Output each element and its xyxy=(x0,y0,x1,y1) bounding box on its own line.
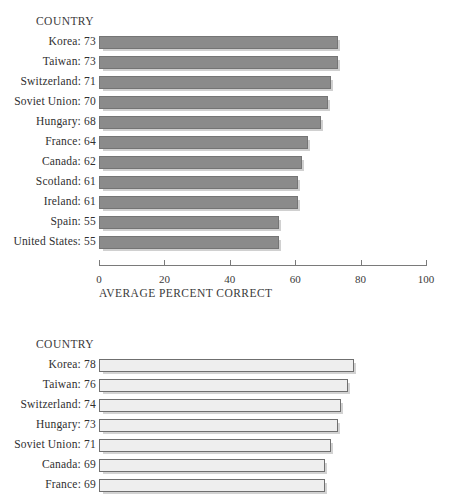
top-bar xyxy=(99,216,279,229)
top-row-label: Canada: 62 xyxy=(42,155,96,167)
x-axis-tick-label: 60 xyxy=(290,273,301,285)
bar-row: Scotland: 61 xyxy=(0,173,462,193)
bar-chart-bottom: COUNTRY Korea: 78Taiwan: 76Switzerland: … xyxy=(0,322,462,489)
category-axis-title-bottom: COUNTRY xyxy=(36,338,94,350)
bottom-bar xyxy=(99,439,331,452)
top-bar xyxy=(99,36,338,49)
bar-row: Canada: 69 xyxy=(0,456,462,476)
top-row-label: Switzerland: 71 xyxy=(21,75,97,87)
bar-track xyxy=(99,216,429,230)
top-bar xyxy=(99,76,331,89)
category-axis-title-top: COUNTRY xyxy=(36,15,94,27)
top-row-label: Ireland: 61 xyxy=(44,195,96,207)
bar-track xyxy=(99,459,429,473)
bar-rows-top: Korea: 73Taiwan: 73Switzerland: 71Soviet… xyxy=(0,33,462,253)
x-axis-top: 020406080100 xyxy=(99,265,426,266)
bar-row: France: 64 xyxy=(0,133,462,153)
top-row-label: Korea: 73 xyxy=(49,35,96,47)
bar-row: Hungary: 73 xyxy=(0,416,462,436)
bar-track xyxy=(99,236,429,250)
bottom-bar xyxy=(99,379,348,392)
x-axis-tick xyxy=(230,260,231,266)
x-axis-tick xyxy=(164,260,165,266)
bar-track xyxy=(99,419,429,433)
bar-row: Canada: 62 xyxy=(0,153,462,173)
bar-track xyxy=(99,399,429,413)
x-axis-tick xyxy=(295,260,296,266)
bar-track xyxy=(99,96,429,110)
bar-track xyxy=(99,116,429,130)
top-bar xyxy=(99,156,302,169)
bar-row: Hungary: 68 xyxy=(0,113,462,133)
x-axis-label-top: AVERAGE PERCENT CORRECT xyxy=(99,287,273,299)
bottom-row-label: Soviet Union: 71 xyxy=(14,438,96,450)
top-row-label: Scotland: 61 xyxy=(36,175,96,187)
top-row-label: United States: 55 xyxy=(13,235,96,247)
bar-track xyxy=(99,379,429,393)
bar-row: Korea: 78 xyxy=(0,356,462,376)
bottom-row-label: France: 69 xyxy=(45,478,96,490)
bar-track xyxy=(99,36,429,50)
x-axis-tick-label: 20 xyxy=(159,273,170,285)
bottom-row-label: Korea: 78 xyxy=(49,358,96,370)
bar-row: Taiwan: 76 xyxy=(0,376,462,396)
bottom-bar xyxy=(99,459,325,472)
bar-track xyxy=(99,479,429,493)
bar-row: Soviet Union: 71 xyxy=(0,436,462,456)
bottom-bar xyxy=(99,419,338,432)
bar-track xyxy=(99,156,429,170)
bottom-row-label: Hungary: 73 xyxy=(36,418,96,430)
x-axis-tick-label: 80 xyxy=(355,273,366,285)
bar-row: Switzerland: 74 xyxy=(0,396,462,416)
bar-row: Korea: 73 xyxy=(0,33,462,53)
top-row-label: Hungary: 68 xyxy=(36,115,96,127)
bottom-row-label: Canada: 69 xyxy=(42,458,96,470)
bar-row: Spain: 55 xyxy=(0,213,462,233)
x-axis-tick-label: 0 xyxy=(96,273,102,285)
top-bar xyxy=(99,96,328,109)
bar-track xyxy=(99,56,429,70)
top-row-label: Soviet Union: 70 xyxy=(14,95,96,107)
bar-track xyxy=(99,196,429,210)
bar-row: France: 69 xyxy=(0,476,462,496)
bottom-bar xyxy=(99,359,354,372)
bar-track xyxy=(99,136,429,150)
top-row-label: Taiwan: 73 xyxy=(43,55,96,67)
top-bar xyxy=(99,236,279,249)
top-bar xyxy=(99,56,338,69)
x-axis-tick xyxy=(361,260,362,266)
bottom-bar xyxy=(99,479,325,492)
bar-track xyxy=(99,176,429,190)
x-axis-tick-label: 100 xyxy=(418,273,435,285)
bar-track xyxy=(99,359,429,373)
bottom-row-label: Taiwan: 76 xyxy=(43,378,96,390)
x-axis-tick xyxy=(99,260,100,266)
bar-rows-bottom: Korea: 78Taiwan: 76Switzerland: 74Hungar… xyxy=(0,356,462,496)
top-row-label: France: 64 xyxy=(45,135,96,147)
bar-track xyxy=(99,76,429,90)
top-bar xyxy=(99,116,321,129)
bar-row: United States: 55 xyxy=(0,233,462,253)
x-axis-tick xyxy=(426,260,427,266)
top-bar xyxy=(99,196,298,209)
x-axis-tick-label: 40 xyxy=(224,273,235,285)
bar-chart-top: COUNTRY Korea: 73Taiwan: 73Switzerland: … xyxy=(0,0,462,310)
top-bar xyxy=(99,176,298,189)
bar-track xyxy=(99,439,429,453)
bottom-bar xyxy=(99,399,341,412)
bar-row: Switzerland: 71 xyxy=(0,73,462,93)
bar-row: Ireland: 61 xyxy=(0,193,462,213)
bar-row: Taiwan: 73 xyxy=(0,53,462,73)
bottom-row-label: Switzerland: 74 xyxy=(21,398,97,410)
top-row-label: Spain: 55 xyxy=(50,215,96,227)
top-bar xyxy=(99,136,308,149)
bar-row: Soviet Union: 70 xyxy=(0,93,462,113)
